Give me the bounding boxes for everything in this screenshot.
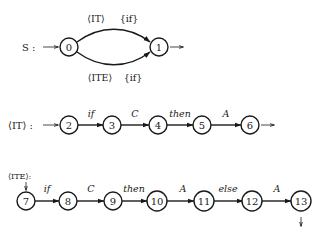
edge-label-if-lower: {if} [124, 72, 143, 83]
state-13: 13 [291, 191, 311, 211]
state-11: 11 [194, 191, 214, 211]
state-12: 12 [242, 191, 262, 211]
edge-label: else [218, 183, 238, 194]
edge-label: if [44, 183, 52, 194]
state-3: 3 [103, 116, 121, 134]
svg-text:6: 6 [247, 120, 253, 131]
state-7: 7 [17, 192, 35, 210]
svg-text:10: 10 [151, 196, 164, 207]
edge-label-it: ⟨IT⟩ [87, 13, 105, 24]
svg-text:5: 5 [199, 120, 205, 131]
edge-label: A [179, 183, 187, 194]
state-1: 1 [150, 38, 168, 56]
edge-0-1-upper [77, 29, 150, 42]
svg-text:4: 4 [155, 120, 161, 131]
state-5: 5 [193, 116, 211, 134]
edge-label: if [88, 108, 96, 119]
svg-text:9: 9 [110, 196, 116, 207]
svg-text:0: 0 [66, 42, 72, 53]
svg-text:7: 7 [23, 196, 29, 207]
edge-label: then [169, 108, 191, 119]
svg-text:13: 13 [295, 196, 308, 207]
edge-label-if-upper: {if} [120, 13, 139, 24]
svg-text:12: 12 [246, 196, 259, 207]
edge-label: C [87, 183, 95, 194]
edge-label-ite: ⟨ITE⟩ [88, 72, 112, 83]
automata-diagram: S : ⟨IT⟩ {if} ⟨ITE⟩ {if} 0 1 ⟨IT⟩ : if C… [0, 0, 328, 241]
edge-label: A [273, 183, 281, 194]
automaton-it: ⟨IT⟩ : if C then A 2 3 4 5 6 [8, 108, 274, 134]
edge-label: then [123, 183, 145, 194]
svg-text:11: 11 [198, 196, 211, 207]
state-2: 2 [60, 116, 78, 134]
state-8: 8 [59, 192, 77, 210]
svg-text:2: 2 [66, 120, 72, 131]
state-10: 10 [147, 191, 167, 211]
svg-text:1: 1 [156, 42, 162, 53]
state-9: 9 [104, 192, 122, 210]
svg-text:8: 8 [65, 196, 71, 207]
edge-0-1-lower [77, 52, 150, 65]
edge-label: A [222, 108, 230, 119]
automaton-ite: ⟨ITE⟩: if C then A else A 7 8 9 10 11 12… [8, 172, 311, 226]
state-6: 6 [241, 116, 259, 134]
automaton-s-label: S : [22, 42, 35, 53]
svg-text:3: 3 [109, 120, 115, 131]
automaton-s: S : ⟨IT⟩ {if} ⟨ITE⟩ {if} 0 1 [22, 13, 183, 83]
state-0: 0 [60, 38, 78, 56]
automaton-it-label: ⟨IT⟩ : [8, 120, 33, 131]
state-4: 4 [149, 116, 167, 134]
automaton-ite-label: ⟨ITE⟩: [8, 172, 31, 181]
edge-label: C [131, 108, 139, 119]
